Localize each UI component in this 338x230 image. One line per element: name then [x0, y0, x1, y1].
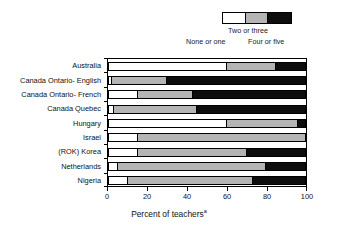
legend-swatches: [222, 12, 292, 24]
legend-label-four-or-five: Four or five: [248, 37, 284, 46]
bar-segment-none-or-one: [108, 119, 227, 128]
x-axis-tick-label: 40: [183, 192, 191, 201]
legend-swatch-two-or-three: [246, 13, 269, 23]
bar-row-hungary: [108, 119, 306, 128]
x-axis-tick-label: 60: [223, 192, 231, 201]
bar-segment-four-or-five: [197, 105, 306, 114]
legend-label-none-or-one: None or one: [186, 37, 226, 46]
y-axis-labels: AustraliaCanada Ontario- EnglishCanada O…: [0, 58, 105, 187]
bar-row-australia: [108, 62, 306, 71]
legend-label-two-or-three: Two or three: [228, 26, 268, 35]
y-axis-label-rok-korea: (ROK) Korea: [58, 147, 101, 156]
bar-segment-none-or-one: [108, 176, 128, 185]
y-axis-label-canada-ontario-english: Canada Ontario- English: [20, 76, 101, 85]
x-axis-tick: [187, 187, 188, 191]
x-axis-tick-label: 80: [263, 192, 271, 201]
bar-row-netherlands: [108, 162, 306, 171]
y-axis-label-hungary: Hungary: [73, 119, 101, 128]
bar-segment-none-or-one: [108, 162, 118, 171]
y-axis-label-netherlands: Netherlands: [61, 162, 101, 171]
bar-segment-none-or-one: [108, 90, 138, 99]
bar-segment-four-or-five: [193, 90, 306, 99]
bar-rows: [108, 59, 306, 186]
bar-segment-two-or-three: [112, 76, 167, 85]
x-axis-tick: [107, 187, 108, 191]
x-axis-tick-label: 20: [143, 192, 151, 201]
bar-row-canada-ontario-english: [108, 76, 306, 85]
x-axis-title-superscript: a: [204, 208, 207, 214]
bar-segment-two-or-three: [118, 162, 267, 171]
legend-swatch-none-or-one: [223, 13, 246, 23]
x-axis-tick: [267, 187, 268, 191]
y-axis-label-australia: Australia: [72, 61, 101, 70]
x-axis-tick-label: 100: [301, 192, 313, 201]
bar-row-nigeria: [108, 176, 306, 185]
x-axis-title-text: Percent of teachers: [131, 209, 204, 219]
bar-segment-two-or-three: [138, 148, 247, 157]
bar-row-rok-korea: [108, 148, 306, 157]
bar-segment-two-or-three: [128, 176, 253, 185]
x-axis-tick-label: 0: [105, 192, 109, 201]
y-axis-label-canada-ontario-french: Canada Ontario- French: [21, 90, 101, 99]
x-axis-tick-labels: 020406080100: [107, 192, 307, 202]
x-axis-ticks: [107, 187, 307, 191]
x-axis-title: Percent of teachersa: [0, 206, 338, 220]
bar-segment-two-or-three: [114, 105, 197, 114]
bar-segment-none-or-one: [108, 133, 138, 142]
bar-segment-two-or-three: [138, 133, 306, 142]
bar-segment-two-or-three: [138, 90, 193, 99]
legend-swatch-four-or-five: [268, 13, 291, 23]
y-axis-label-canada-quebec: Canada Quebec: [47, 104, 101, 113]
bar-segment-four-or-five: [247, 148, 306, 157]
bar-segment-four-or-five: [167, 76, 306, 85]
x-axis-tick: [227, 187, 228, 191]
chart-figure: Two or three None or one Four or five Au…: [0, 0, 338, 230]
bar-segment-four-or-five: [266, 162, 306, 171]
x-axis-tick: [306, 187, 307, 191]
plot-area: [107, 58, 307, 187]
bar-segment-four-or-five: [276, 62, 306, 71]
bar-row-canada-ontario-french: [108, 90, 306, 99]
bar-segment-none-or-one: [108, 148, 138, 157]
bar-segment-two-or-three: [227, 119, 298, 128]
x-axis-tick: [147, 187, 148, 191]
bar-row-canada-quebec: [108, 105, 306, 114]
bar-row-israel: [108, 133, 306, 142]
bar-segment-none-or-one: [108, 62, 227, 71]
bar-segment-four-or-five: [253, 176, 306, 185]
bar-segment-two-or-three: [227, 62, 277, 71]
bar-segment-four-or-five: [298, 119, 306, 128]
legend: [222, 12, 292, 24]
y-axis-label-nigeria: Nigeria: [78, 176, 101, 185]
y-axis-label-israel: Israel: [83, 133, 101, 142]
